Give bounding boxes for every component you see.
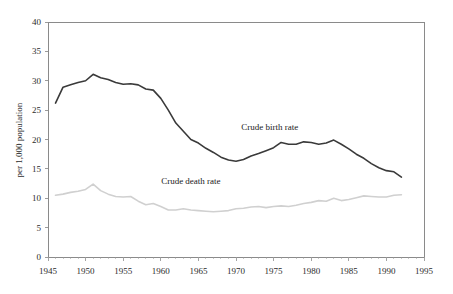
y-tick-label-20: 20 (32, 135, 42, 145)
y-tick-label-40: 40 (32, 17, 42, 27)
x-tick-label-1950: 1950 (77, 266, 96, 276)
x-tick-label-1985: 1985 (340, 266, 359, 276)
x-tick-label-1990: 1990 (377, 266, 396, 276)
y-axis-title: per 1,000 population (14, 102, 24, 177)
y-tick-label-0: 0 (37, 252, 42, 262)
y-tick-label-15: 15 (32, 164, 42, 174)
x-tick-label-1945: 1945 (39, 266, 58, 276)
x-tick-label-1960: 1960 (152, 266, 171, 276)
x-tick-label-1965: 1965 (189, 266, 208, 276)
y-tick-label-5: 5 (37, 223, 42, 233)
crude-birth-and-death-rate-line-chart: 0510152025303540 19451950195519601965197… (0, 0, 453, 294)
y-tick-label-35: 35 (32, 46, 42, 56)
y-tick-label-10: 10 (32, 193, 42, 203)
chart-figure: 0510152025303540 19451950195519601965197… (0, 0, 453, 294)
x-tick-label-1995: 1995 (415, 266, 434, 276)
x-tick-label-1980: 1980 (302, 266, 321, 276)
y-tick-label-25: 25 (32, 105, 42, 115)
series-annotation-crude-death-rate: Crude death rate (161, 176, 220, 186)
x-tick-label-1955: 1955 (114, 266, 133, 276)
y-tick-label-30: 30 (32, 76, 42, 86)
x-tick-label-1975: 1975 (265, 266, 284, 276)
series-annotation-crude-birth-rate: Crude birth rate (241, 122, 298, 132)
x-tick-label-1970: 1970 (227, 266, 246, 276)
chart-background (0, 0, 453, 294)
